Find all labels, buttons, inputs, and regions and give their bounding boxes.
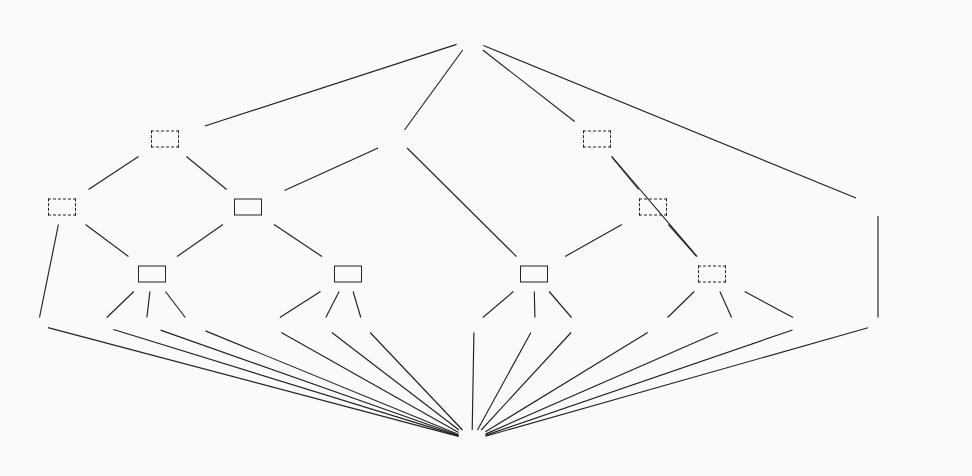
lattice-node-notunsne (639, 199, 667, 216)
lattice-node-unum_eps (151, 131, 179, 148)
lattice-edge-uint-to-s2 (147, 292, 150, 318)
lattice-edge-signednum-to-e3 (549, 292, 571, 318)
lattice-node-unum (234, 199, 262, 216)
lattice-edge-ufloat-to-s25 (326, 292, 339, 318)
lattice-diagram-figure (0, 0, 972, 476)
lattice-edge-unum-to-ufloat (274, 225, 322, 257)
lattice-edge-notnumne-to-e4 (745, 292, 793, 318)
lattice-edge-e2-to-bottom (370, 333, 462, 431)
lattice-edge-splus2-to-bottom (478, 333, 531, 431)
lattice-edge-s25-to-bottom (332, 333, 459, 431)
lattice-edge-sbar-to-bottom (485, 333, 717, 435)
lattice-edge-uint_eps-to-uint (86, 225, 129, 257)
lattice-edge-uint-to-s1 (107, 292, 134, 318)
lattice-node-notuintne (583, 131, 611, 148)
lattice-node-notnumne (698, 266, 726, 283)
lattice-edge-top-to-notuintne (483, 50, 575, 122)
lattice-edge-top-to-unum_eps (205, 44, 457, 126)
lattice-node-uint_eps (48, 199, 76, 216)
lattice-edge-unum_eps-to-unum (186, 157, 226, 190)
lattice-edge-s1-to-bottom (114, 330, 459, 436)
lattice-edge-numeric-to-unum (284, 148, 378, 191)
lattice-edge-unum-to-uint (177, 225, 223, 257)
lattice-edge-unum_eps-to-uint_eps (89, 157, 139, 190)
lattice-edge-s2-to-bottom (161, 330, 459, 435)
lattice-edge-e4-to-bottom (485, 330, 792, 435)
lattice-edge-sneg02-to-bottom (472, 333, 474, 431)
lattice-edge-signednum-to-sneg02 (483, 292, 514, 318)
lattice-node-notnumeric (876, 205, 880, 209)
lattice-node-uint (138, 266, 166, 283)
lattice-edge-top-to-numeric (405, 50, 463, 130)
lattice-edge-notnumne-to-sbar (720, 292, 732, 318)
lattice-edge-numeric-to-signednum (407, 148, 516, 257)
lattice-edge-notunsne-to-signednum (565, 225, 622, 257)
lattice-edge-uint_eps-to-empty_l (40, 225, 59, 318)
lattice-edge-notnumne-to-sfoo (668, 292, 695, 318)
lattice-edge-uint-to-e1 (165, 292, 185, 318)
lattice-node-signednum (520, 266, 548, 283)
lattice-node-numeric (396, 137, 400, 141)
lattice-edge-empty_r-to-bottom (485, 328, 868, 436)
lattice-edge-notunsne-to-notnumne (668, 225, 696, 257)
lattice-edge-ufloat-to-e2 (353, 292, 361, 318)
lattice-edge-ufloat-to-s13 (280, 292, 321, 318)
lattice-edge-e1-to-bottom (206, 331, 459, 435)
lattice-edge-signednum-to-splus2 (534, 292, 535, 318)
lattice-edge-sfoo-to-bottom (485, 333, 647, 432)
lattice-edge-top-to-notnumeric (483, 46, 856, 199)
lattice-node-ufloat (334, 266, 362, 283)
edge-layer (0, 0, 972, 476)
